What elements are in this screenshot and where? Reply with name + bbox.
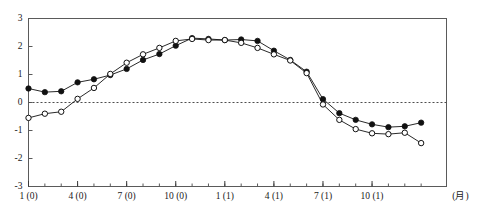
y-axis-label: -3 — [15, 181, 23, 191]
data-point-filled — [418, 120, 423, 125]
data-point-open — [124, 60, 129, 65]
x-axis-label: 7 (0) — [118, 191, 136, 202]
data-point-open — [238, 40, 243, 45]
data-point-open — [173, 38, 178, 43]
x-axis-label: 4 (0) — [68, 191, 86, 202]
x-axis-label: 10 (1) — [361, 191, 384, 202]
data-point-open — [189, 36, 194, 41]
data-point-filled — [255, 38, 260, 43]
data-point-filled — [75, 80, 80, 85]
data-point-filled — [91, 77, 96, 82]
x-axis-label: 4 (1) — [265, 191, 283, 202]
data-point-open — [271, 52, 276, 57]
x-axis-label: 10 (0) — [164, 191, 187, 202]
series-line-series-open — [29, 39, 422, 143]
series-line-series-filled — [29, 38, 422, 127]
y-axis-label: 3 — [18, 13, 23, 23]
data-point-open — [59, 109, 64, 114]
data-point-open — [206, 37, 211, 42]
data-point-filled — [26, 86, 31, 91]
data-point-filled — [59, 89, 64, 94]
data-point-filled — [402, 124, 407, 129]
data-point-open — [108, 71, 113, 76]
data-point-filled — [140, 57, 145, 62]
data-point-open — [418, 140, 423, 145]
line-chart: 3210-1-2-31 (0)4 (0)7 (0)10 (0)1 (1)4 (1… — [0, 0, 479, 212]
data-point-filled — [369, 122, 374, 127]
data-point-open — [288, 58, 293, 63]
data-point-open — [91, 85, 96, 90]
data-point-filled — [124, 66, 129, 71]
data-point-open — [222, 37, 227, 42]
data-point-open — [320, 102, 325, 107]
y-axis-label: 1 — [18, 69, 23, 79]
x-axis-label: 1 (0) — [19, 191, 37, 202]
data-point-filled — [42, 89, 47, 94]
data-point-open — [386, 131, 391, 136]
data-point-filled — [353, 117, 358, 122]
x-axis-label: 7 (1) — [314, 191, 332, 202]
data-point-open — [75, 96, 80, 101]
data-point-open — [26, 115, 31, 120]
data-point-filled — [386, 124, 391, 129]
data-point-open — [337, 117, 342, 122]
data-point-open — [140, 52, 145, 57]
y-axis-label: -2 — [15, 153, 23, 163]
y-axis-label: 2 — [18, 41, 23, 51]
data-point-open — [304, 70, 309, 75]
x-axis-label: 1 (1) — [216, 191, 234, 202]
data-point-open — [157, 45, 162, 50]
data-point-open — [369, 131, 374, 136]
y-axis-label: -1 — [15, 125, 23, 135]
x-axis-unit-label: (月) — [452, 191, 468, 202]
y-axis-label: 0 — [18, 97, 23, 107]
data-point-open — [255, 45, 260, 50]
data-point-open — [42, 111, 47, 116]
data-point-filled — [337, 110, 342, 115]
data-point-filled — [157, 51, 162, 56]
chart-container: 3210-1-2-31 (0)4 (0)7 (0)10 (0)1 (1)4 (1… — [0, 0, 479, 212]
data-point-open — [353, 126, 358, 131]
data-point-open — [402, 130, 407, 135]
